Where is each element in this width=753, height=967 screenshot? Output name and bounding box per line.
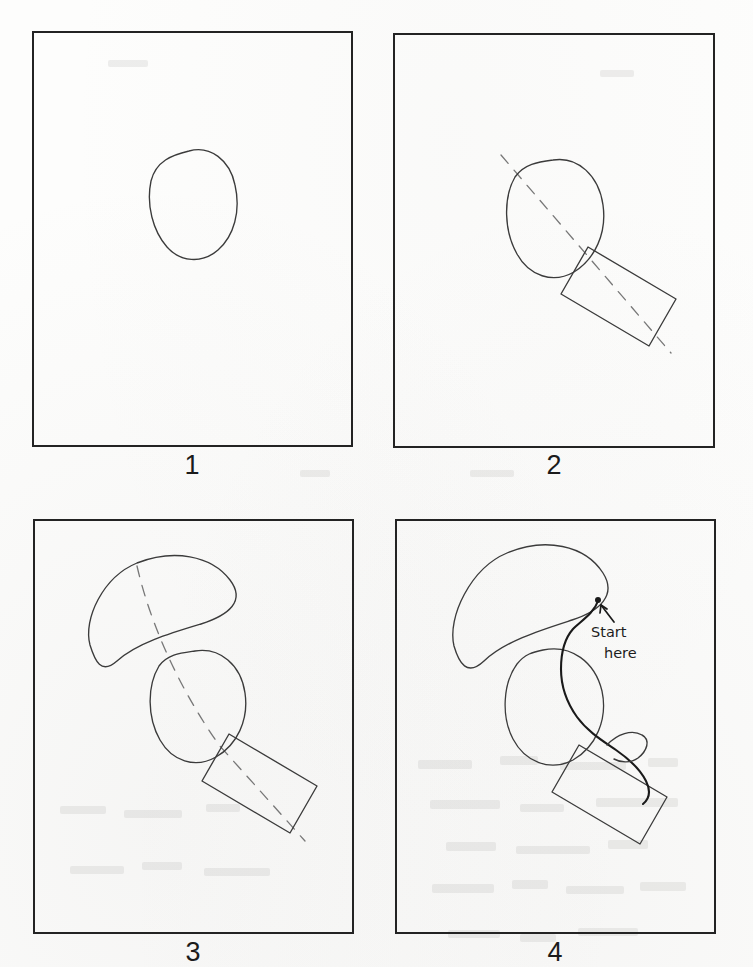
panel-1-label: 1: [162, 452, 222, 479]
start-point-dot-panel-4: [595, 597, 601, 603]
panel-3-artwork: [33, 519, 354, 934]
rectangle-shape-panel-3: [202, 734, 317, 833]
oval-shape-panel-1: [149, 150, 237, 260]
panel-3-label: 3: [163, 939, 223, 966]
rectangle-shape-panel-2: [561, 247, 676, 346]
annotation-text-line-2: here: [604, 645, 637, 661]
crescent-shape-panel-3: [89, 556, 237, 667]
annotation-text-line-1: Start: [591, 624, 627, 640]
panel-2-label: 2: [524, 452, 584, 479]
tutorial-panel-3: [33, 519, 354, 934]
dashed-guide-line-panel-3: [137, 566, 305, 841]
tutorial-panel-grid: 1 2 3: [0, 0, 753, 967]
panel-4-artwork: Start here: [395, 519, 716, 934]
panel-4-label: 4: [525, 939, 585, 966]
tutorial-panel-2: [393, 33, 715, 448]
panel-1-artwork: [32, 31, 353, 447]
tutorial-panel-4: Start here: [395, 519, 716, 934]
annotation-arrow-icon-panel-4: [600, 605, 614, 622]
oval-shape-panel-3: [150, 650, 246, 762]
tutorial-panel-1: [32, 31, 353, 447]
dashed-guide-line-panel-2: [501, 155, 671, 353]
oval-shape-panel-4: [505, 649, 603, 765]
panel-2-artwork: [393, 33, 715, 448]
crescent-shape-panel-4: [453, 545, 608, 668]
